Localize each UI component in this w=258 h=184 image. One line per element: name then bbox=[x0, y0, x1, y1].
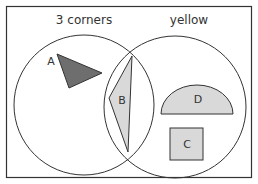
venn-diagram: 3 corners yellow A B D C bbox=[0, 0, 258, 184]
set-label-yellow: yellow bbox=[170, 13, 208, 27]
shape-c-label: C bbox=[183, 138, 191, 151]
set-label-3-corners: 3 corners bbox=[56, 13, 112, 27]
shape-b-label: B bbox=[118, 94, 126, 107]
shape-a-label: A bbox=[47, 55, 55, 68]
shape-d-label: D bbox=[194, 93, 202, 106]
